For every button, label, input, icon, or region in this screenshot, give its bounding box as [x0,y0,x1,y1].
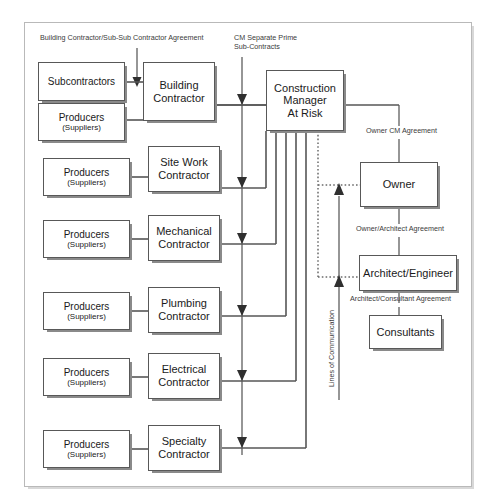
node-construction-manager-label-2: Manager [274,94,336,107]
label-lines-of-communication: Lines of Communication [327,310,336,387]
node-mechanical-contractor-label-2: Contractor [156,238,212,251]
node-plumbing-contractor-label-1: Plumbing [158,297,209,310]
node-construction-manager-at-risk[interactable]: Construction Manager At Risk [266,70,344,131]
node-electrical-contractor-label-2: Contractor [158,376,209,389]
node-subcontractors[interactable]: Subcontractors [38,62,125,101]
node-producers-5[interactable]: Producers (Suppliers) [43,358,130,396]
node-building-contractor-label-2: Contractor [153,92,204,105]
node-producers-3-label: Producers [64,229,110,241]
node-plumbing-contractor-label-2: Contractor [158,310,209,323]
node-site-work-contractor-label-2: Contractor [158,169,209,182]
node-building-contractor[interactable]: Building Contractor [143,62,215,121]
node-producers-2[interactable]: Producers (Suppliers) [43,158,130,196]
node-mechanical-contractor[interactable]: Mechanical Contractor [148,215,220,261]
node-specialty-contractor-label-2: Contractor [158,448,209,461]
node-construction-manager-label-3: At Risk [274,107,336,120]
node-producers-3[interactable]: Producers (Suppliers) [43,220,130,258]
node-producers-4-sublabel: (Suppliers) [64,312,110,321]
label-cm-separate-prime: CM Separate Prime Sub-Contracts [234,33,297,52]
node-producers-3-sublabel: (Suppliers) [64,240,110,249]
node-owner[interactable]: Owner [360,162,438,207]
node-building-contractor-label-1: Building [153,79,204,92]
node-site-work-contractor-label-1: Site Work [158,156,209,169]
node-owner-label: Owner [383,178,415,191]
label-owner-cm-agreement: Owner CM Agreement [366,126,437,135]
node-producers-5-sublabel: (Suppliers) [64,378,110,387]
node-producers-2-sublabel: (Suppliers) [64,178,110,187]
node-producers-6-label: Producers [64,439,110,451]
node-site-work-contractor[interactable]: Site Work Contractor [148,146,220,192]
node-subcontractors-label: Subcontractors [48,76,115,88]
node-construction-manager-label-1: Construction [274,82,336,95]
node-producers-6[interactable]: Producers (Suppliers) [43,430,130,468]
node-producers-4[interactable]: Producers (Suppliers) [43,292,130,330]
node-plumbing-contractor[interactable]: Plumbing Contractor [148,287,220,333]
node-producers-1-sublabel: (Suppliers) [59,123,105,132]
node-consultants-label: Consultants [376,326,434,339]
node-consultants[interactable]: Consultants [369,315,442,349]
label-owner-architect-agreement: Owner/Architect Agreement [356,224,444,233]
node-mechanical-contractor-label-1: Mechanical [156,225,212,238]
node-electrical-contractor-label-1: Electrical [158,363,209,376]
node-producers-1[interactable]: Producers (Suppliers) [38,103,125,141]
diagram-canvas: Building Contractor/Sub-Sub Contractor A… [0,0,488,504]
node-architect-engineer[interactable]: Architect/Engineer [359,255,457,291]
node-producers-4-label: Producers [64,301,110,313]
node-producers-1-label: Producers [59,112,105,124]
node-producers-6-sublabel: (Suppliers) [64,450,110,459]
node-specialty-contractor[interactable]: Specialty Contractor [148,425,220,471]
label-architect-consultant-agreement: Architect/Consultant Agreement [350,294,451,303]
label-building-sub-agreement: Building Contractor/Sub-Sub Contractor A… [40,33,203,42]
node-specialty-contractor-label-1: Specialty [158,435,209,448]
node-architect-engineer-label: Architect/Engineer [363,267,453,280]
node-producers-2-label: Producers [64,167,110,179]
node-electrical-contractor[interactable]: Electrical Contractor [148,353,220,399]
node-producers-5-label: Producers [64,367,110,379]
